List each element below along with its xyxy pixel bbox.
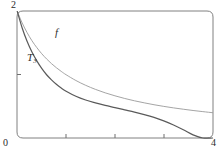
curve-label-f: f <box>55 27 58 38</box>
curve-t3 <box>17 12 212 139</box>
taylor-approximation-figure: 2 0 4 f T3 <box>0 0 223 153</box>
curve-f <box>17 12 212 113</box>
x-axis-max-label: 4 <box>211 138 216 148</box>
y-axis-max-label: 2 <box>11 0 16 10</box>
x-axis-origin-label: 0 <box>3 138 8 148</box>
curve-label-t3: T3 <box>27 52 37 63</box>
plot-canvas <box>0 0 223 153</box>
curve-label-t3-subscript: 3 <box>33 57 37 65</box>
x-axis-ticks <box>66 134 164 138</box>
